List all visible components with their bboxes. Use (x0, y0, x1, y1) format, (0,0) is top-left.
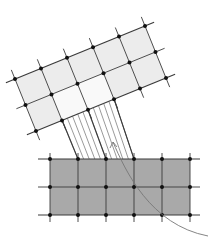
upper-grid-node (39, 66, 43, 70)
lower-grid-node (188, 185, 192, 189)
lower-grid-node (132, 157, 136, 161)
upper-grid-node (112, 97, 116, 101)
lower-grid-node (132, 185, 136, 189)
lower-grid-node (48, 185, 52, 189)
lower-grid-node (104, 185, 108, 189)
lower-grid-node (48, 157, 52, 161)
lower-grid-node (76, 157, 80, 161)
upper-grid-node (154, 50, 158, 54)
upper-grid-node (91, 45, 95, 49)
upper-grid-node (24, 103, 28, 107)
projection-line (104, 103, 123, 159)
upper-grid-node (34, 129, 38, 133)
lower-grid-node (160, 185, 164, 189)
lower-grid-node (188, 213, 192, 217)
upper-grid-node (117, 35, 121, 39)
upper-grid-node (76, 82, 80, 86)
projection-line (109, 101, 129, 159)
lower-grid-node (104, 157, 108, 161)
upper-grid-node (102, 71, 106, 75)
upper-grid-node (13, 77, 17, 81)
lower-grid-node (188, 157, 192, 161)
lower-grid-node (132, 213, 136, 217)
upper-grid-node (164, 76, 168, 80)
upper-grid-node (65, 56, 69, 60)
lower-grid-node (48, 213, 52, 217)
projection-diagram (0, 0, 208, 242)
upper-grid-node (86, 108, 90, 112)
projection-line (98, 105, 117, 159)
lower-grid-node (76, 213, 80, 217)
upper-grid-node (138, 87, 142, 91)
upper-grid-node (143, 24, 147, 28)
lower-grid-node (76, 185, 80, 189)
upper-grid-node (60, 118, 64, 122)
upper-grid-node (50, 92, 54, 96)
arrowhead-icon (110, 142, 117, 148)
lower-grid-node (104, 213, 108, 217)
upper-grid-node (128, 61, 132, 65)
lower-grid-node (160, 157, 164, 161)
